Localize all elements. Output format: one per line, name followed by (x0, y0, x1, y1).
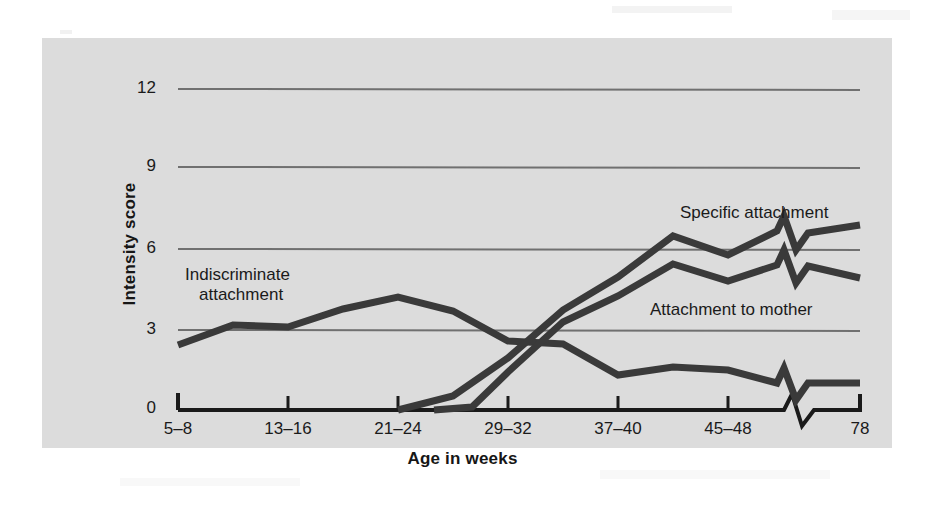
scan-artifact (120, 478, 300, 486)
series-label-mother: Attachment to mother (650, 300, 813, 320)
series-label-specific: Specific attachment (680, 203, 828, 223)
gridline-12 (178, 89, 860, 90)
y-axis-title: Intensity score (120, 144, 140, 344)
xtick-label-29-32: 29–32 (458, 419, 558, 439)
xtick-label-37-40: 37–40 (568, 419, 668, 439)
xtick-label-78: 78 (830, 419, 890, 439)
xtick-label-45-48: 45–48 (678, 419, 778, 439)
series-label-indiscriminate-line1: Indiscriminate (185, 265, 290, 285)
ytick-label-12: 12 (112, 78, 156, 98)
x-axis-title: Age in weeks (0, 449, 925, 469)
gridline-9 (178, 167, 860, 168)
xtick-label-21-24: 21–24 (348, 419, 448, 439)
scan-artifact (600, 470, 830, 479)
xtick-label-5-8: 5–8 (138, 419, 218, 439)
x-axis-ticks (178, 396, 860, 410)
series-label-indiscriminate: Indiscriminate attachment (185, 265, 290, 304)
scan-artifact (832, 10, 910, 20)
gridline-6 (178, 249, 860, 250)
chart-plot-panel: 12 9 6 3 0 5–8 13–16 21–24 29–32 37–40 4… (42, 38, 892, 448)
scan-artifact (612, 6, 732, 13)
xtick-label-13-16: 13–16 (238, 419, 338, 439)
ytick-label-0: 0 (112, 398, 156, 418)
series-label-indiscriminate-line2: attachment (185, 285, 290, 305)
chart-canvas (42, 38, 892, 448)
scan-artifact (60, 30, 72, 34)
figure-page: 12 9 6 3 0 5–8 13–16 21–24 29–32 37–40 4… (0, 0, 925, 507)
